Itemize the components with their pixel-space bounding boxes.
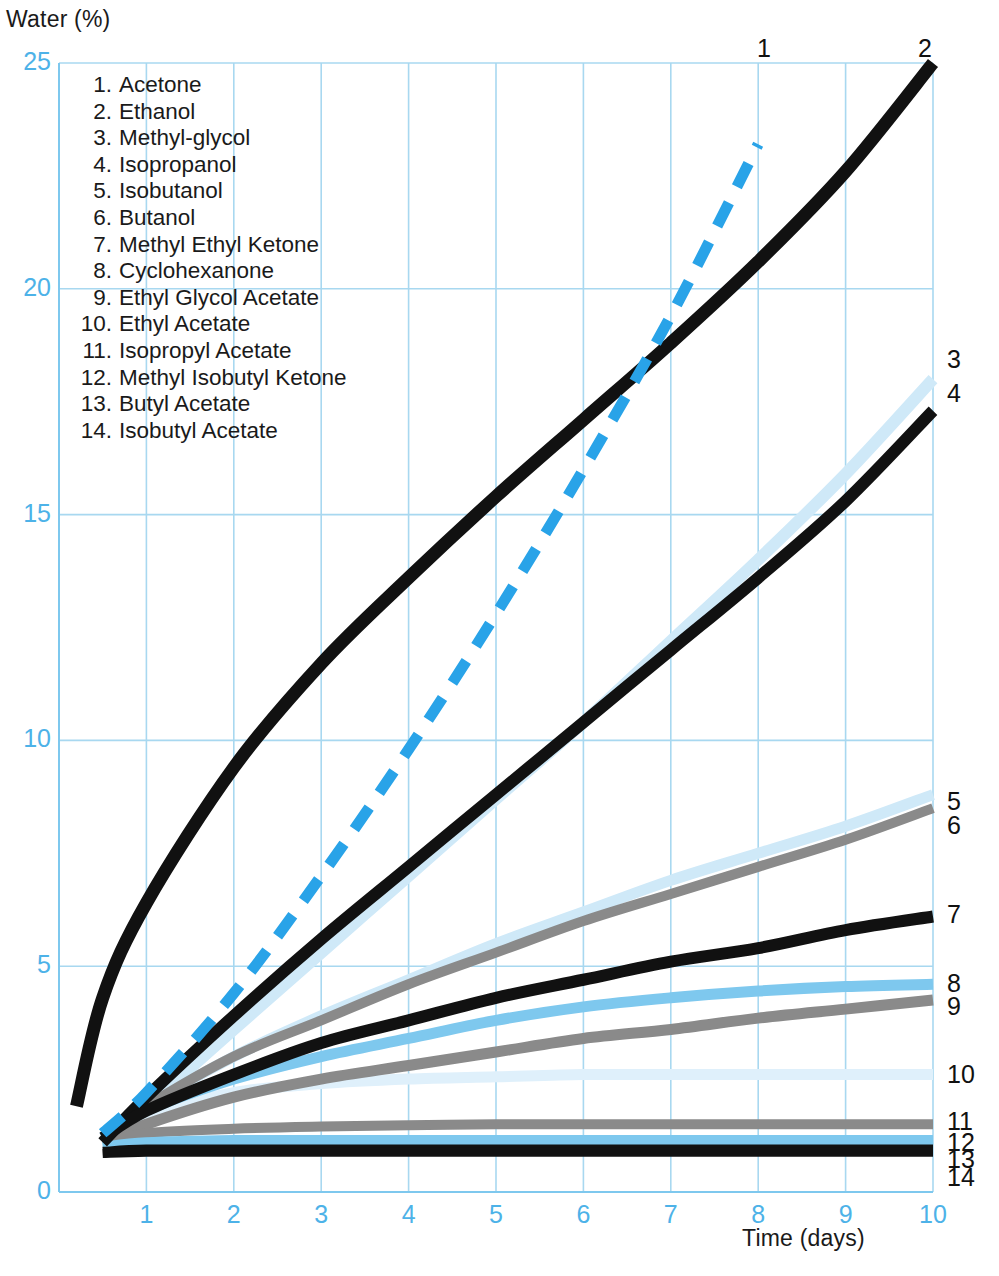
legend-item-number: 5. [74, 178, 119, 205]
legend-item-number: 4. [74, 152, 119, 179]
curve-label-3: 3 [947, 345, 961, 374]
x-tick-label-6: 6 [561, 1200, 605, 1229]
curve-label-7: 7 [947, 900, 961, 929]
x-tick-label-4: 4 [387, 1200, 431, 1229]
y-tick-label-20: 20 [7, 273, 51, 302]
series-line-14 [103, 1152, 933, 1153]
curve-label-14: 14 [947, 1163, 975, 1192]
curve-label-1: 1 [757, 34, 771, 63]
chart-root: Water (%) Time (days) 1.Acetone2.Ethanol… [0, 0, 999, 1276]
legend-item-number: 13. [74, 391, 119, 418]
legend-item-label: Methyl Isobutyl Ketone [119, 365, 347, 392]
legend-item-number: 14. [74, 418, 119, 445]
legend-item-14: 14.Isobutyl Acetate [74, 418, 347, 445]
legend-item-label: Methyl-glycol [119, 125, 250, 152]
legend-item-number: 3. [74, 125, 119, 152]
legend-item-number: 2. [74, 99, 119, 126]
x-tick-label-3: 3 [299, 1200, 343, 1229]
legend-item-number: 9. [74, 285, 119, 312]
x-tick-label-9: 9 [824, 1200, 868, 1229]
curve-label-10: 10 [947, 1060, 975, 1089]
legend-item-number: 6. [74, 205, 119, 232]
legend-item-label: Butyl Acetate [119, 391, 250, 418]
legend-item-label: Acetone [119, 72, 202, 99]
x-tick-label-8: 8 [736, 1200, 780, 1229]
x-tick-label-1: 1 [124, 1200, 168, 1229]
y-tick-label-15: 15 [7, 499, 51, 528]
legend-item-label: Ethyl Acetate [119, 311, 250, 338]
legend-item-label: Isobutyl Acetate [119, 418, 278, 445]
legend-item-13: 13.Butyl Acetate [74, 391, 347, 418]
legend-item-11: 11.Isopropyl Acetate [74, 338, 347, 365]
legend-item-7: 7.Methyl Ethyl Ketone [74, 232, 347, 259]
curve-label-6: 6 [947, 811, 961, 840]
legend-item-6: 6.Butanol [74, 205, 347, 232]
curve-label-4: 4 [947, 379, 961, 408]
legend-item-number: 8. [74, 258, 119, 285]
legend-item-label: Butanol [119, 205, 195, 232]
curve-label-9: 9 [947, 992, 961, 1021]
legend-item-number: 12. [74, 365, 119, 392]
legend-item-2: 2.Ethanol [74, 99, 347, 126]
y-tick-label-10: 10 [7, 724, 51, 753]
y-tick-label-5: 5 [7, 950, 51, 979]
legend-item-10: 10.Ethyl Acetate [74, 311, 347, 338]
legend-item-5: 5.Isobutanol [74, 178, 347, 205]
legend-item-label: Methyl Ethyl Ketone [119, 232, 319, 259]
legend-item-number: 11. [74, 338, 119, 365]
legend-item-number: 7. [74, 232, 119, 259]
curve-label-2: 2 [918, 34, 932, 63]
legend-item-9: 9.Ethyl Glycol Acetate [74, 285, 347, 312]
legend-item-12: 12.Methyl Isobutyl Ketone [74, 365, 347, 392]
x-tick-label-10: 10 [911, 1200, 955, 1229]
legend-item-number: 10. [74, 311, 119, 338]
legend-item-4: 4.Isopropanol [74, 152, 347, 179]
y-tick-label-25: 25 [7, 47, 51, 76]
legend-item-8: 8.Cyclohexanone [74, 258, 347, 285]
legend: 1.Acetone2.Ethanol3.Methyl-glycol4.Isopr… [74, 72, 347, 444]
legend-item-label: Ethanol [119, 99, 195, 126]
x-tick-label-5: 5 [474, 1200, 518, 1229]
x-tick-label-7: 7 [649, 1200, 693, 1229]
legend-item-label: Isobutanol [119, 178, 223, 205]
legend-item-label: Isopropanol [119, 152, 237, 179]
y-tick-label-0: 0 [7, 1176, 51, 1205]
legend-item-1: 1.Acetone [74, 72, 347, 99]
legend-item-3: 3.Methyl-glycol [74, 125, 347, 152]
x-tick-label-2: 2 [212, 1200, 256, 1229]
legend-item-label: Cyclohexanone [119, 258, 274, 285]
legend-item-number: 1. [74, 72, 119, 99]
legend-item-label: Ethyl Glycol Acetate [119, 285, 319, 312]
legend-item-label: Isopropyl Acetate [119, 338, 292, 365]
